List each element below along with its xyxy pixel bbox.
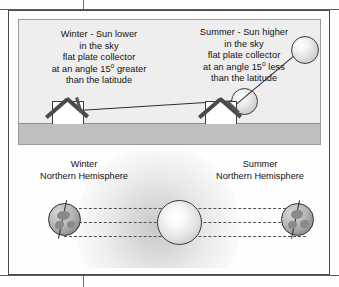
winter-angle-prefix: at an angle 15	[52, 64, 111, 74]
winter-caption-line-5: than the latitude	[25, 75, 173, 87]
earth-winter-position	[48, 203, 81, 236]
summer-sun-icon	[291, 36, 319, 64]
top-panel-collector-angle: Winter - Sun lower in the sky flat plate…	[18, 19, 321, 145]
summer-hemisphere-label: Summer Northern Hemisphere	[198, 159, 321, 182]
page-artifact-bottom-horizontal-rule	[0, 275, 339, 276]
winter-caption-line-1: Winter - Sun lower	[25, 29, 173, 41]
summer-label-line-2: Northern Hemisphere	[198, 171, 321, 183]
winter-angle-suffix: greater	[114, 64, 146, 74]
continent-shape	[300, 220, 309, 228]
winter-caption-line-3: flat plate collector	[25, 52, 173, 64]
summer-caption-line-1: Summer - Sun higher	[171, 27, 317, 39]
summer-angle-prefix: at an angle 15	[203, 62, 262, 72]
figure-frame: Winter - Sun lower in the sky flat plate…	[8, 10, 330, 275]
winter-caption-line-4: at an angle 15o greater	[25, 64, 173, 76]
continent-shape	[55, 221, 64, 229]
summer-label-line-1: Summer	[198, 159, 321, 171]
earth-summer-position	[281, 203, 314, 236]
earth-axis-tilt-line	[291, 200, 300, 238]
continent-shape	[57, 211, 70, 220]
summer-caption-line-4: at an angle 15o less	[171, 62, 317, 74]
summer-house	[196, 94, 248, 124]
winter-hemisphere-label: Winter Northern Hemisphere	[22, 159, 146, 182]
continent-shape	[291, 210, 303, 219]
page-artifact-bottom-vertical-rule	[83, 276, 84, 287]
winter-collector-caption: Winter - Sun lower in the sky flat plate…	[25, 29, 173, 87]
central-sun-icon	[157, 200, 202, 245]
figure-page: Winter - Sun lower in the sky flat plate…	[0, 0, 339, 287]
ground-band	[19, 123, 320, 144]
continent-shape	[67, 221, 75, 228]
winter-label-line-1: Winter	[22, 159, 146, 171]
continent-shape	[288, 221, 297, 229]
winter-caption-line-2: in the sky	[25, 41, 173, 53]
summer-caption-line-5: than the latitude	[171, 73, 317, 85]
bottom-panel-earth-orbit: Winter Northern Hemisphere Summer Northe…	[18, 151, 321, 268]
winter-house	[43, 94, 95, 124]
winter-label-line-2: Northern Hemisphere	[22, 171, 146, 183]
